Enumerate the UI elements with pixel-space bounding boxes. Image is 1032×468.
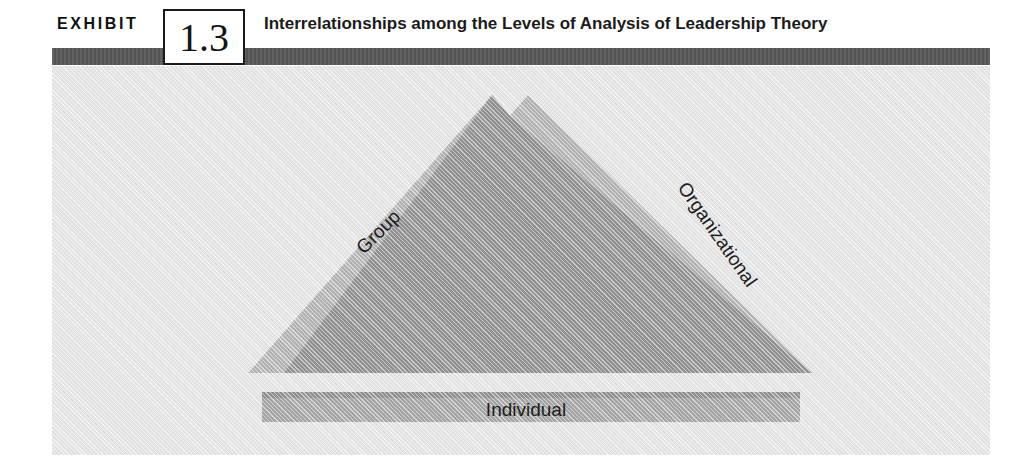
exhibit-header: EXHIBIT 1.3 Interrelationships among the… [0, 0, 1032, 75]
levels-of-analysis-diagram [52, 66, 990, 455]
level-label-individual: Individual [52, 399, 990, 421]
exhibit-label: EXHIBIT [57, 15, 138, 33]
diagram-panel: Group Organizational Individual [52, 66, 990, 455]
exhibit-figure: EXHIBIT 1.3 Interrelationships among the… [0, 0, 1032, 468]
exhibit-number-box: 1.3 [163, 9, 245, 65]
exhibit-title: Interrelationships among the Levels of A… [264, 14, 827, 34]
exhibit-number: 1.3 [179, 18, 229, 58]
diagram-texture-overlay [52, 66, 990, 455]
